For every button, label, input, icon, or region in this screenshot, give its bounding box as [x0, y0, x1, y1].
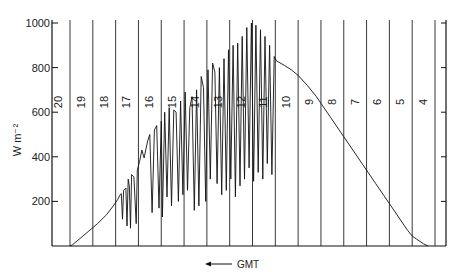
y-axis-title: W m⁻² — [11, 124, 23, 157]
y-tick-label-200: 200 — [32, 195, 50, 207]
hour-label-15: 15 — [166, 96, 178, 108]
hour-label-17: 17 — [120, 96, 132, 108]
hour-label-12: 12 — [235, 96, 247, 108]
y-tick-label-800: 800 — [32, 62, 50, 74]
y-tick-label-1000: 1000 — [26, 17, 50, 29]
y-tick-label-600: 600 — [32, 106, 50, 118]
hour-label-9: 9 — [303, 99, 315, 105]
y-tick-label-400: 400 — [32, 151, 50, 163]
hour-label-4: 4 — [417, 99, 429, 105]
hour-label-19: 19 — [75, 96, 87, 108]
y-ticks: 2004006008001000 — [26, 17, 58, 207]
right-axis-ticks — [441, 23, 446, 201]
hour-label-8: 8 — [326, 99, 338, 105]
series-line-global-irradiance — [70, 23, 428, 246]
hour-label-20: 20 — [52, 96, 64, 108]
x-axis-title: GMT — [237, 259, 259, 270]
hour-label-18: 18 — [98, 96, 110, 108]
hour-label-5: 5 — [394, 99, 406, 105]
hour-label-7: 7 — [349, 99, 361, 105]
arrow-head-icon — [205, 262, 211, 267]
hour-labels: 2019181716151413121110987654 — [52, 96, 429, 108]
hour-label-6: 6 — [371, 99, 383, 105]
x-axis-title-group: GMT — [205, 259, 259, 270]
hour-label-16: 16 — [143, 96, 155, 108]
hour-label-10: 10 — [280, 96, 292, 108]
irradiance-chart: 2019181716151413121110987654 20040060080… — [0, 0, 460, 279]
hour-label-13: 13 — [212, 96, 224, 108]
